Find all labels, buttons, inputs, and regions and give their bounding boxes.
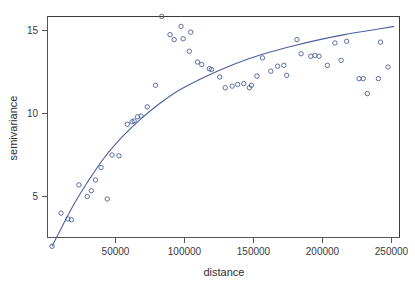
data-point bbox=[284, 73, 288, 77]
data-point bbox=[344, 39, 348, 43]
data-point bbox=[105, 197, 109, 201]
data-point bbox=[99, 165, 103, 169]
plot-canvas: 15 10 5 semivariance 50000 100000 150000… bbox=[0, 0, 415, 286]
data-point bbox=[376, 76, 380, 80]
data-point bbox=[187, 49, 191, 53]
data-point bbox=[189, 30, 193, 34]
x-tick-label-50000: 50000 bbox=[102, 246, 130, 257]
data-point bbox=[93, 178, 97, 182]
y-tick-label-5: 5 bbox=[32, 191, 38, 202]
data-point bbox=[172, 37, 176, 41]
data-point bbox=[269, 69, 273, 73]
semivariogram-figure: 15 10 5 semivariance 50000 100000 150000… bbox=[0, 0, 415, 286]
x-tick-label-100000: 100000 bbox=[168, 246, 202, 257]
data-point bbox=[110, 153, 114, 157]
data-point bbox=[275, 64, 279, 68]
data-point bbox=[378, 40, 382, 44]
y-tick-label-15: 15 bbox=[27, 25, 39, 36]
y-axis-title: semivariance bbox=[7, 96, 19, 161]
data-point bbox=[85, 194, 89, 198]
data-point bbox=[230, 84, 234, 88]
data-point bbox=[333, 41, 337, 45]
data-point bbox=[255, 74, 259, 78]
data-point bbox=[195, 60, 199, 64]
x-tick-label-200000: 200000 bbox=[306, 246, 340, 257]
y-axis-ticks bbox=[42, 31, 48, 197]
data-point bbox=[235, 82, 239, 86]
data-point bbox=[313, 53, 317, 57]
data-point bbox=[223, 86, 227, 90]
data-point bbox=[295, 37, 299, 41]
data-point bbox=[217, 75, 221, 79]
x-axis-title: distance bbox=[204, 266, 245, 278]
data-point bbox=[317, 54, 321, 58]
data-point bbox=[145, 105, 149, 109]
plot-frame bbox=[47, 17, 400, 238]
data-point bbox=[77, 183, 81, 187]
data-point bbox=[200, 62, 204, 66]
y-axis: 15 10 5 semivariance bbox=[7, 17, 48, 238]
data-point bbox=[59, 211, 63, 215]
data-point bbox=[299, 52, 303, 56]
data-point bbox=[386, 65, 390, 69]
data-point bbox=[179, 24, 183, 28]
data-point bbox=[309, 54, 313, 58]
x-tick-label-250000: 250000 bbox=[375, 246, 409, 257]
y-tick-label-10: 10 bbox=[27, 108, 39, 119]
data-point bbox=[117, 154, 121, 158]
data-point bbox=[125, 122, 129, 126]
data-point bbox=[181, 37, 185, 41]
data-point bbox=[89, 188, 93, 192]
scatter-points-layer bbox=[50, 14, 390, 248]
data-point bbox=[339, 58, 343, 62]
x-axis: 50000 100000 150000 200000 250000 distan… bbox=[47, 238, 409, 279]
x-axis-ticks bbox=[116, 238, 392, 244]
data-point bbox=[242, 81, 246, 85]
data-point bbox=[168, 32, 172, 36]
data-point bbox=[282, 63, 286, 67]
data-point bbox=[260, 56, 264, 60]
data-point bbox=[153, 83, 157, 87]
x-tick-label-150000: 150000 bbox=[237, 246, 271, 257]
data-point bbox=[365, 91, 369, 95]
data-point bbox=[325, 63, 329, 67]
